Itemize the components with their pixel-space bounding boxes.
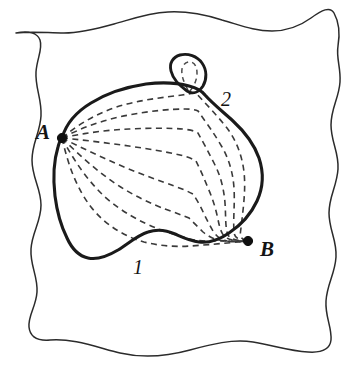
topology-figure: A B 1 2: [0, 0, 356, 387]
vertex-dot-a: [57, 133, 66, 142]
label-point-b: B: [259, 237, 274, 261]
label-point-a: A: [34, 120, 50, 144]
label-arc-one: 1: [133, 256, 143, 278]
label-arc-two: 2: [221, 88, 231, 110]
figure-container: A B 1 2: [0, 0, 356, 387]
vertex-dot-b: [243, 236, 252, 245]
